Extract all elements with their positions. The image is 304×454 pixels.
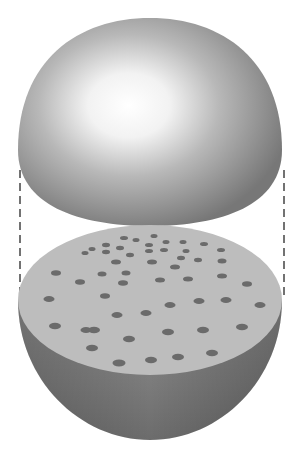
diagram-canvas [0, 0, 304, 454]
upper-hemisphere [18, 18, 282, 226]
cut-face [18, 225, 282, 375]
split-sphere-diagram [0, 0, 304, 454]
